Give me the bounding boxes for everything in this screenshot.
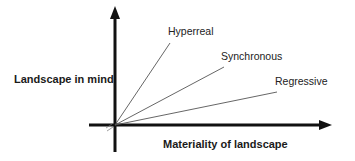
x-axis-arrow-icon <box>319 120 332 130</box>
ray-regressive <box>115 92 277 125</box>
ray-synchronous <box>115 67 224 125</box>
x-axis-label: Materiality of landscape <box>163 139 288 150</box>
ray-label-synchronous: Synchronous <box>221 51 282 62</box>
y-axis-label: Landscape in mind <box>14 74 114 85</box>
y-axis-arrow-icon <box>110 6 120 19</box>
ray-label-regressive: Regressive <box>275 76 328 87</box>
x-axis <box>89 120 332 130</box>
ray-hyperreal <box>115 43 170 125</box>
ray-label-hyperreal: Hyperreal <box>168 26 214 37</box>
